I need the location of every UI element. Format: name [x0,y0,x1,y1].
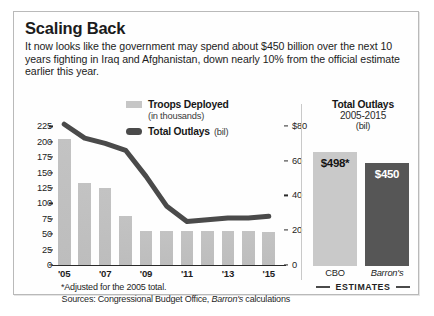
y-tick-mark-left [49,141,53,142]
side-panel-bar-value: $450 [365,168,409,180]
y-tick-label-left: 225 [18,121,52,131]
y-tick-mark-left [49,157,53,158]
bar-swatch-icon [126,101,142,108]
x-tick-label: '13 [222,268,234,279]
x-tick-label: '07 [99,268,111,279]
y-tick-mark-left [49,172,53,173]
main-chart: Troops Deployed (in thousands) Total Out… [14,98,299,296]
y-tick-mark-left [49,187,53,188]
side-panel-bar: $498* [313,152,357,266]
y-tick-label-left: 150 [18,168,52,178]
legend-label-troops: Troops Deployed [148,99,229,110]
side-panel-unit: (bil) [310,121,416,131]
y-tick-label-left: 100 [18,198,52,208]
side-panel-bar-value: $498* [313,157,357,169]
y-tick-mark-left [49,218,53,219]
sources-italic: Barron's [211,294,243,304]
outlays-line-series [54,119,279,265]
panel-divider [301,104,302,280]
y-tick-label-left: 125 [18,183,52,193]
side-panel: Total Outlays 2005-2015 (bil) $498*$450 … [310,98,416,296]
chart-title: Scaling Back [25,19,405,37]
chart-deck: It now looks like the government may spe… [25,40,405,78]
side-panel-bars: $498*$450 [313,138,413,266]
y-tick-mark-right [284,160,288,161]
y-tick-mark-left [49,203,53,204]
y-axis-left: 2252001751501251007550250 [14,119,52,265]
x-tick-label: '05 [58,268,70,279]
side-panel-bar-label: Barron's [364,268,410,278]
y-tick-label-left: 25 [18,245,52,255]
y-tick-label-left: 75 [18,214,52,224]
footnote: *Adjusted for the 2005 total. [61,282,166,292]
x-tick-label: '15 [263,268,275,279]
legend-item-troops: Troops Deployed [126,98,229,111]
y-tick-mark-right [284,195,288,196]
y-tick-label-left: 50 [18,229,52,239]
y-tick-label-left: 200 [18,137,52,147]
estimates-label: ESTIMATES [335,282,390,292]
x-tick-label: '11 [181,268,193,279]
y-tick-mark-left [49,234,53,235]
y-tick-mark-left [49,249,53,250]
side-panel-subtitle: 2005-2015 [310,110,416,121]
side-panel-bar: $450 [365,163,409,266]
x-tick-label: '09 [140,268,152,279]
sources-prefix: Sources: Congressional Budget Office, [62,294,212,304]
y-tick-mark-left [49,126,53,127]
chart-figure: Scaling Back It now looks like the gover… [13,11,419,295]
chart-header: Scaling Back It now looks like the gover… [25,19,405,78]
sources-note: Sources: Congressional Budget Office, Ba… [62,294,290,304]
estimates-rule-left-icon [316,286,330,287]
sources-suffix: calculations [243,294,290,304]
y-tick-mark-right [284,125,288,126]
y-tick-label-left: 175 [18,152,52,162]
estimates-caption: ESTIMATES [310,282,416,292]
side-panel-title: Total Outlays [310,99,416,110]
side-panel-bar-label: CBO [312,268,358,278]
y-tick-mark-right [284,230,288,231]
estimates-rule-right-icon [396,286,410,287]
y-tick-label-left: 0 [18,260,52,270]
outlays-line [64,124,269,221]
x-axis-line [52,265,286,266]
